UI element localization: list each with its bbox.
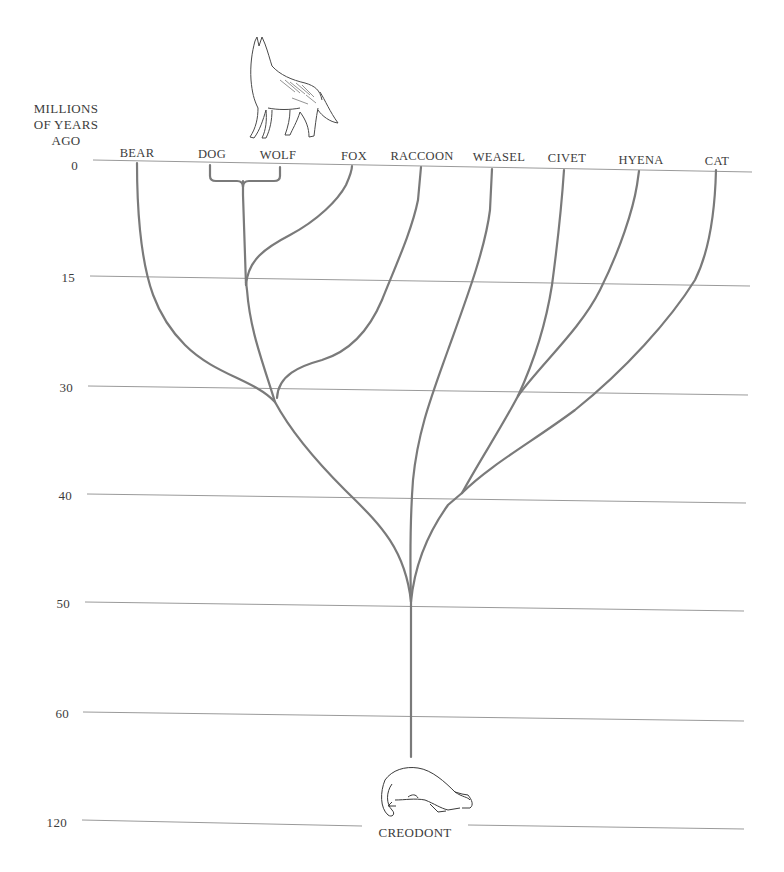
creodont-legs — [388, 802, 446, 812]
wolf-head — [255, 37, 272, 66]
creodont-illustration — [382, 768, 473, 817]
gridline-60 — [83, 712, 744, 721]
branch-dog-wolf-stem — [243, 181, 246, 285]
gridline-0 — [93, 160, 752, 172]
wolf-hind-leg-2 — [285, 110, 300, 135]
branches — [137, 163, 716, 757]
branch-civet-hyena-stem — [462, 396, 518, 493]
gridlines — [82, 160, 752, 829]
gridline-40 — [87, 494, 746, 503]
creodont-belly — [395, 799, 460, 810]
branch-left-clade — [275, 402, 411, 602]
gridline-30 — [88, 386, 748, 395]
wolf-back — [272, 66, 322, 100]
wolf-fur-hatching — [280, 80, 316, 104]
gridline-50 — [85, 602, 744, 611]
gridline-15 — [90, 276, 750, 286]
branch-right-clade — [411, 493, 462, 602]
tree-graphic — [0, 0, 784, 872]
bracket-dog-wolf — [210, 165, 280, 187]
branch-raccoon — [277, 167, 421, 398]
creodont-back — [385, 768, 470, 801]
wolf-belly — [268, 108, 300, 110]
wolf-front-leg-2 — [262, 110, 272, 138]
creodont-tail — [382, 780, 394, 816]
gridline-120-left — [82, 820, 362, 826]
branch-weasel — [410, 169, 492, 602]
branch-cat — [462, 170, 716, 493]
creodont-haunch — [408, 795, 418, 798]
wolf-chest — [251, 41, 258, 108]
branch-bear — [137, 163, 275, 402]
gridline-120-right — [468, 825, 744, 829]
branch-fox — [246, 166, 352, 285]
wolf-illustration — [250, 37, 338, 138]
phylogeny-diagram: MILLIONS OF YEARS AGO 0 15 30 40 50 60 1… — [0, 0, 784, 872]
wolf-hind-leg — [300, 108, 318, 137]
